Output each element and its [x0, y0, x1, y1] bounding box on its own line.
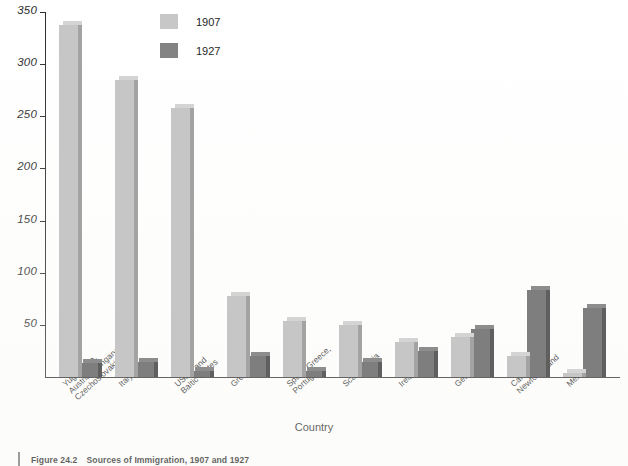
bar-side [582, 373, 586, 377]
bar-side [266, 356, 270, 377]
bar-1907 [507, 356, 526, 377]
bar-1907 [339, 325, 358, 377]
y-tick-label: 50 [24, 317, 37, 329]
bar-face [507, 356, 526, 377]
bar-side [190, 108, 194, 377]
bar-side [210, 371, 214, 377]
bar-face [563, 373, 582, 377]
bar-1907 [227, 296, 246, 377]
bar-top [363, 358, 382, 362]
bar-top [139, 358, 158, 362]
bar-face [583, 308, 602, 377]
bar-group [283, 12, 326, 377]
bar-face [171, 108, 190, 377]
bar-side [526, 356, 530, 377]
y-tick-label: 100 [17, 265, 37, 277]
bar-top [567, 369, 586, 373]
bar-group [227, 12, 270, 377]
bar-face [451, 337, 470, 377]
bar-1907 [563, 373, 582, 377]
bar-top [287, 317, 306, 321]
bar-1907 [171, 108, 190, 377]
bar-group [451, 12, 494, 377]
bar-side [414, 342, 418, 377]
bar-group [507, 12, 550, 377]
bar-side [602, 308, 606, 377]
bar-group [171, 12, 214, 377]
bar-top [531, 286, 550, 290]
bar-1907 [59, 25, 78, 377]
caption-title: Sources of Immigration, 1907 and 1927 [86, 455, 249, 465]
bar-top [511, 352, 530, 356]
y-tick-mark [40, 116, 46, 117]
bar-side [546, 290, 550, 377]
bar-face [283, 321, 302, 377]
y-tick-mark [40, 64, 46, 65]
y-tick-mark [40, 12, 46, 13]
y-tick-label: 300 [17, 56, 37, 68]
figure-container: 1907 1927 Immigrants (in Thousands) 3503… [0, 0, 628, 466]
caption-rule [18, 452, 20, 466]
bar-face [115, 80, 134, 377]
bar-top [63, 21, 82, 25]
bar-face [227, 296, 246, 377]
bar-face [395, 342, 414, 377]
bar-top [83, 359, 102, 363]
plot-area: 35030025020015010050 [45, 12, 620, 377]
bar-group [339, 12, 382, 377]
y-tick-mark [40, 325, 46, 326]
y-tick-label: 150 [17, 213, 37, 225]
bar-side [490, 329, 494, 377]
bar-top [399, 338, 418, 342]
bar-top [587, 304, 606, 308]
bar-top [175, 104, 194, 108]
bar-1907 [451, 337, 470, 377]
bar-top [231, 292, 250, 296]
bar-top [119, 76, 138, 80]
caption-text: Figure 24.2Sources of Immigration, 1907 … [31, 455, 249, 465]
bar-side [378, 362, 382, 377]
bar-top [195, 367, 214, 371]
bar-side [302, 321, 306, 377]
y-tick-mark [40, 168, 46, 169]
y-tick-label: 350 [17, 4, 37, 16]
bar-side [434, 351, 438, 377]
y-axis-line [45, 12, 46, 377]
bar-side [154, 362, 158, 377]
y-tick-mark [40, 273, 46, 274]
bar-side [246, 296, 250, 377]
figure-caption: Figure 24.2Sources of Immigration, 1907 … [0, 452, 628, 466]
y-tick-label: 200 [17, 160, 37, 172]
bar-1907 [115, 80, 134, 377]
bar-top [455, 333, 474, 337]
bar-1907 [395, 342, 414, 377]
bar-group [115, 12, 158, 377]
bar-top [343, 321, 362, 325]
bar-top [251, 352, 270, 356]
bar-group [395, 12, 438, 377]
bar-top [307, 367, 326, 371]
bar-1927 [583, 308, 602, 377]
caption-label: Figure 24.2 [31, 455, 77, 465]
bar-side [78, 25, 82, 377]
bar-top [475, 325, 494, 329]
y-tick-mark [40, 221, 46, 222]
bar-side [98, 363, 102, 377]
bar-side [134, 80, 138, 377]
x-axis-title: Country [0, 421, 628, 433]
bar-side [322, 371, 326, 377]
y-tick-label: 250 [17, 108, 37, 120]
bar-group [563, 12, 606, 377]
bar-side [358, 325, 362, 377]
bar-side [470, 337, 474, 377]
bar-face [339, 325, 358, 377]
bar-top [419, 347, 438, 351]
bar-1907 [283, 321, 302, 377]
bar-group [59, 12, 102, 377]
bar-face [59, 25, 78, 377]
